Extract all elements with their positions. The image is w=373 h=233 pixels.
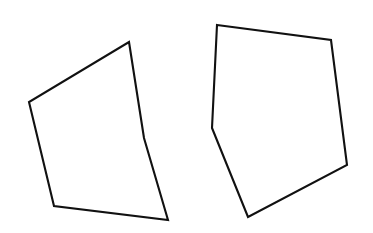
canvas-background: [0, 0, 373, 233]
figure-canvas: [0, 0, 373, 233]
two-pentagons-figure: [0, 0, 373, 233]
